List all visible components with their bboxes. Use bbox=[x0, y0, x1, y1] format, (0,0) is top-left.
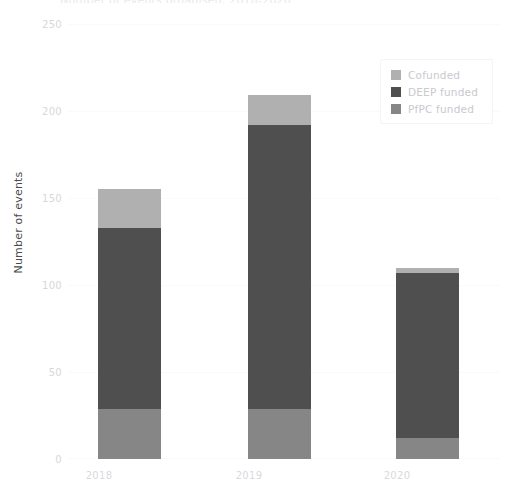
legend-item-deep-funded[interactable]: DEEP funded bbox=[391, 86, 483, 98]
legend-item-pfpc-funded[interactable]: PfPC funded bbox=[391, 103, 483, 115]
chart-title: Number of events organised, 2018-2020 bbox=[60, 0, 460, 3]
stacked-bar-chart: Number of events organised, 2018-2020 25… bbox=[0, 0, 507, 494]
bar-segment-cofunded-2020[interactable] bbox=[396, 268, 459, 273]
legend-swatch-pfpc-funded bbox=[391, 104, 401, 114]
y-axis-tick-labels: 250 200 150 100 50 0 bbox=[18, 24, 62, 459]
legend-item-cofunded[interactable]: Cofunded bbox=[391, 69, 483, 81]
legend-label-cofunded: Cofunded bbox=[408, 69, 460, 81]
y-tick-250: 250 bbox=[22, 19, 62, 30]
y-tick-200: 200 bbox=[22, 106, 62, 117]
bar-group-2020[interactable] bbox=[396, 268, 459, 459]
y-tick-100: 100 bbox=[22, 280, 62, 291]
y-tick-0: 0 bbox=[22, 454, 62, 465]
bar-segment-pfpc-funded-2019[interactable] bbox=[248, 409, 311, 459]
bar-group-2019[interactable] bbox=[248, 95, 311, 459]
legend-label-deep-funded: DEEP funded bbox=[408, 86, 478, 98]
y-axis-title: Number of events bbox=[12, 123, 25, 323]
legend: Cofunded DEEP funded PfPC funded bbox=[380, 59, 493, 124]
legend-swatch-cofunded bbox=[391, 70, 401, 80]
bar-segment-deep-funded-2019[interactable] bbox=[248, 125, 311, 409]
bar-segment-pfpc-funded-2018[interactable] bbox=[98, 409, 161, 459]
x-tick-2018: 2018 bbox=[39, 470, 159, 481]
bar-segment-cofunded-2019[interactable] bbox=[248, 95, 311, 125]
legend-label-pfpc-funded: PfPC funded bbox=[408, 103, 474, 115]
bar-segment-pfpc-funded-2020[interactable] bbox=[396, 438, 459, 459]
bar-group-2018[interactable] bbox=[98, 189, 161, 459]
bar-segment-cofunded-2018[interactable] bbox=[98, 189, 161, 227]
y-tick-50: 50 bbox=[22, 367, 62, 378]
y-tick-150: 150 bbox=[22, 193, 62, 204]
x-tick-2020: 2020 bbox=[337, 470, 457, 481]
gridline-250 bbox=[68, 24, 500, 25]
bar-segment-deep-funded-2020[interactable] bbox=[396, 273, 459, 438]
bar-segment-deep-funded-2018[interactable] bbox=[98, 228, 161, 409]
legend-swatch-deep-funded bbox=[391, 87, 401, 97]
x-tick-2019: 2019 bbox=[189, 470, 309, 481]
